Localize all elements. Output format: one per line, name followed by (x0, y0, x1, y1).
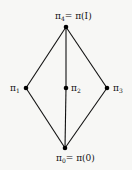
node-pi2 (64, 86, 69, 91)
edge-pi4-pi3 (66, 27, 107, 88)
label-pi0: π0= π(0) (56, 154, 95, 164)
edge-pi3-pi0 (65, 88, 107, 148)
label-pi3-subscript: 3 (119, 87, 123, 94)
label-pi2-subscript: 2 (77, 87, 81, 94)
edge-pi4-pi1 (26, 27, 66, 88)
label-pi1-subscript: 1 (16, 87, 20, 94)
node-pi4 (64, 25, 69, 30)
node-pi3 (105, 86, 110, 91)
node-pi0 (63, 146, 68, 151)
label-pi0-value: = π(0) (66, 153, 95, 163)
label-pi2: π2 (71, 84, 81, 94)
label-pi3: π3 (113, 84, 123, 94)
edge-pi2-pi0 (65, 88, 66, 148)
node-pi1 (24, 86, 29, 91)
label-pi4-value: = π(I) (65, 11, 92, 21)
label-pi1: π1 (10, 84, 20, 94)
label-pi4: π4= π(I) (55, 12, 92, 22)
edge-pi1-pi0 (26, 88, 65, 148)
